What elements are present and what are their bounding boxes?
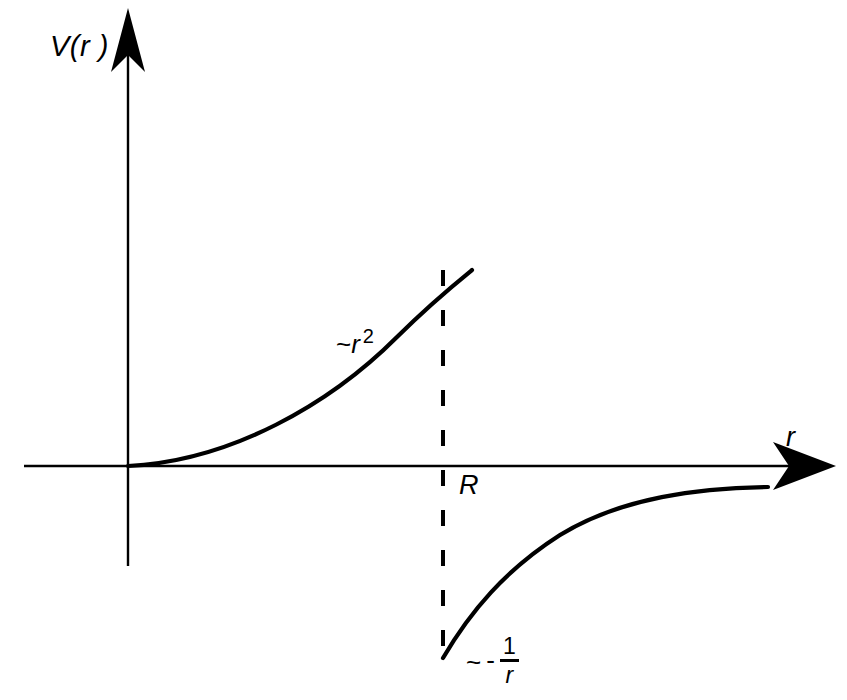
plot-canvas — [0, 0, 847, 700]
potential-diagram-figure: V(r ) r R ~r2 ~ - 1 r — [0, 0, 847, 700]
x-axis-label: r — [786, 424, 795, 451]
fraction-numerator: 1 — [501, 635, 518, 659]
hyperbola-curve — [443, 487, 768, 658]
radius-tick-label: R — [459, 472, 479, 499]
tilde-symbol: ~ — [336, 329, 351, 359]
fraction-denominator: r — [504, 662, 516, 687]
hyperbola-scaling-annotation: ~ - 1 r — [466, 636, 519, 688]
parabola-curve — [128, 270, 472, 466]
minus-symbol: - — [486, 647, 495, 673]
y-axis-label: V(r ) — [50, 32, 109, 61]
radius-variable-symbol: r — [351, 329, 360, 359]
exponent-symbol: 2 — [363, 325, 374, 347]
parabola-scaling-annotation: ~r2 — [336, 326, 374, 357]
inverse-r-fraction: 1 r — [500, 635, 519, 687]
tilde-symbol: ~ — [466, 649, 481, 675]
